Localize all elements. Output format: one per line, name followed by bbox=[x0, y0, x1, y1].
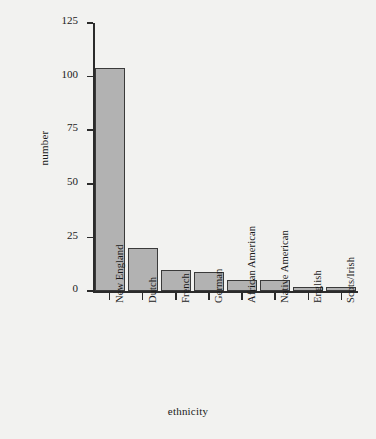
x-axis-tick bbox=[208, 293, 210, 300]
x-axis-tick bbox=[109, 293, 111, 300]
y-axis-tick-label: 75 bbox=[67, 121, 78, 133]
x-axis-tick-label: French bbox=[180, 273, 191, 303]
y-axis-tick: 75 bbox=[87, 129, 93, 131]
x-axis-tick bbox=[274, 293, 276, 300]
y-axis-tick-label: 125 bbox=[62, 14, 79, 26]
y-axis-tick: 25 bbox=[87, 237, 93, 239]
y-axis-tick-label: 100 bbox=[62, 68, 79, 80]
y-axis-tick-label: 0 bbox=[73, 282, 79, 294]
x-axis-tick bbox=[142, 293, 144, 300]
x-axis-tick bbox=[341, 293, 343, 300]
x-axis-tick-label: Dutch bbox=[147, 277, 158, 303]
x-axis-title: ethnicity bbox=[0, 405, 376, 417]
bar-chart: number 0255075100125 New EnglandDutchFre… bbox=[0, 0, 376, 439]
x-axis-tick bbox=[241, 293, 243, 300]
y-axis-tick-label: 50 bbox=[67, 175, 78, 187]
plot-area: 0255075100125 New EnglandDutchFrenchGerm… bbox=[93, 23, 358, 291]
y-axis-tick: 125 bbox=[87, 22, 93, 24]
y-axis-tick: 0 bbox=[87, 290, 93, 292]
y-axis-title: number bbox=[38, 108, 50, 188]
x-axis-tick bbox=[175, 293, 177, 300]
x-axis-tick bbox=[308, 293, 310, 300]
x-axis-tick-label: English bbox=[312, 270, 323, 303]
x-axis-tick-label: Native American bbox=[279, 230, 290, 303]
y-axis-tick-label: 25 bbox=[67, 229, 78, 241]
y-axis-tick: 50 bbox=[87, 183, 93, 185]
x-axis-tick-label: German bbox=[213, 269, 224, 303]
x-axis-tick-label: African American bbox=[246, 226, 257, 303]
y-axis-tick: 100 bbox=[87, 76, 93, 78]
x-axis-tick-label: Scots/Irish bbox=[345, 257, 356, 303]
x-axis-tick-label: New England bbox=[114, 244, 125, 303]
